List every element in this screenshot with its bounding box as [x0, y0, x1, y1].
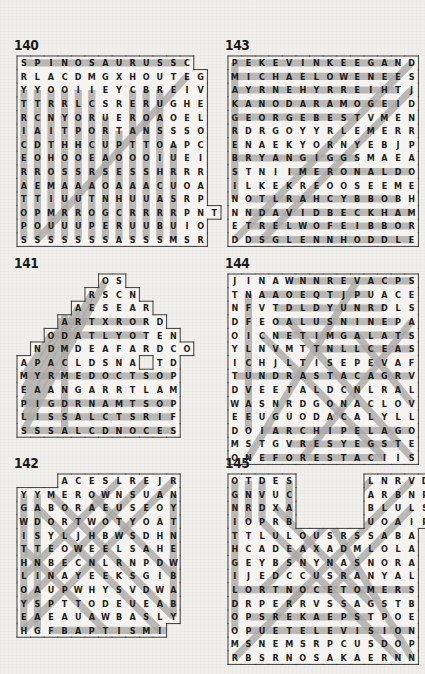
grid-letter: E — [382, 181, 388, 191]
grid-letter: R — [395, 371, 402, 381]
grid-letter: O — [245, 585, 252, 595]
grid-letter: O — [313, 221, 320, 231]
grid-letter: L — [314, 385, 319, 395]
grid-letter: R — [340, 531, 347, 541]
grid-letter: S — [143, 167, 149, 177]
puzzle-grid[interactable]: ACESLREJRYYMEROWNSUANGABORAEUSEOYWDORTWO… — [14, 471, 183, 640]
grid-letter: N — [367, 317, 374, 327]
grid-letter: O — [381, 558, 388, 568]
grid-letter: A — [21, 181, 28, 191]
grid-letter: G — [367, 599, 374, 609]
grid-letter: T — [130, 399, 136, 409]
grid-letter: P — [89, 221, 95, 231]
grid-letter: R — [48, 99, 55, 109]
grid-letter: C — [143, 426, 149, 436]
grid-letter: L — [355, 344, 360, 354]
grid-letter: R — [116, 99, 123, 109]
grid-letter: E — [259, 571, 265, 581]
grid-letter: G — [170, 99, 177, 109]
grid-letter: A — [259, 544, 266, 554]
grid-letter: D — [156, 344, 163, 354]
grid-letter: D — [272, 571, 279, 581]
puzzle-grid[interactable]: OSRSCNAESEARARTXRORDODATLYOTENNDMDEAFARD… — [14, 271, 197, 440]
grid-letter: B — [381, 140, 387, 150]
grid-letter: A — [354, 653, 361, 663]
grid-letter: N — [367, 558, 374, 568]
grid-letter: I — [158, 571, 161, 581]
grid-letter: G — [381, 371, 388, 381]
grid-letter: R — [89, 167, 96, 177]
puzzle-page: 140SPINOSAURUSSCRLACDMGXHOUTEGYYOOIIEYCB… — [0, 0, 425, 674]
grid-letter: N — [34, 344, 41, 354]
grid-letter: C — [313, 585, 319, 595]
grid-letter: A — [75, 626, 82, 636]
grid-letter: N — [286, 585, 293, 595]
grid-letter: A — [327, 99, 334, 109]
grid-letter: A — [170, 585, 177, 595]
grid-letter: F — [171, 412, 177, 422]
grid-letter: P — [21, 221, 27, 231]
puzzle-grid[interactable]: PEKEVINKEEGANDMICHAELOWENEESAYRNEHYRREIH… — [225, 53, 421, 249]
grid-letter: N — [170, 531, 177, 541]
grid-letter: O — [245, 517, 252, 527]
grid-letter: D — [408, 58, 415, 68]
grid-letter: A — [259, 290, 266, 300]
grid-letter: Y — [244, 85, 251, 95]
grid-letter: O — [395, 399, 402, 409]
grid-letter: M — [169, 235, 177, 245]
grid-letter: N — [408, 490, 415, 500]
grid-letter: K — [116, 571, 123, 581]
grid-letter: D — [313, 412, 320, 422]
grid-letter: T — [143, 331, 149, 341]
grid-letter: R — [129, 58, 136, 68]
grid-letter: S — [143, 399, 149, 409]
grid-letter: E — [286, 85, 292, 95]
grid-letter: O — [143, 153, 150, 163]
grid-letter: A — [34, 503, 41, 513]
grid-letter: F — [246, 317, 252, 327]
grid-letter: S — [409, 72, 415, 82]
grid-letter: A — [368, 371, 375, 381]
grid-letter: S — [354, 181, 360, 191]
puzzle-grid[interactable]: SPINOSAURUSSCRLACDMGXHOUTEGYYOOIIEYCBREI… — [14, 53, 224, 249]
grid-letter: P — [381, 612, 387, 622]
grid-letter: N — [48, 571, 55, 581]
grid-letter: L — [368, 385, 373, 395]
grid-letter: O — [327, 181, 334, 191]
grid-letter: I — [288, 167, 291, 177]
grid-letter: R — [143, 303, 150, 313]
grid-letter: E — [409, 612, 415, 622]
grid-letter: R — [327, 85, 334, 95]
puzzle-number: 144 — [225, 256, 398, 271]
puzzle-grid[interactable]: OTDESLNRVDGNVUCARBNPNRDXABLULSIOPRBUOAIP… — [225, 471, 425, 667]
grid-letter: A — [245, 399, 252, 409]
grid-letter: B — [245, 653, 251, 663]
grid-letter: R — [395, 558, 402, 568]
grid-letter: I — [315, 331, 318, 341]
grid-letter: O — [381, 194, 388, 204]
grid-letter: E — [314, 181, 320, 191]
grid-letter: U — [395, 503, 402, 513]
grid-letter: G — [367, 58, 374, 68]
grid-letter: Y — [169, 612, 176, 622]
grid-letter: P — [143, 558, 149, 568]
grid-letter: A — [89, 503, 96, 513]
grid-letter: E — [327, 585, 333, 595]
grid-letter: R — [170, 476, 177, 486]
puzzle-grid[interactable]: JINAWNNREVACPSTNAAOEQTJPUACENFVTDLDYUNRD… — [225, 271, 421, 467]
grid-letter: A — [157, 599, 164, 609]
grid-letter: W — [74, 585, 83, 595]
grid-letter: K — [232, 99, 239, 109]
grid-letter: A — [272, 208, 279, 218]
grid-letter: L — [368, 412, 373, 422]
grid-letter: S — [368, 531, 374, 541]
grid-letter: O — [299, 531, 306, 541]
grid-letter: I — [90, 85, 93, 95]
grid-letter: T — [21, 99, 27, 109]
grid-letter: R — [245, 503, 252, 513]
grid-letter: E — [103, 221, 109, 231]
grid-letter: T — [395, 85, 401, 95]
grid-letter: E — [246, 558, 252, 568]
grid-letter: C — [368, 344, 374, 354]
grid-letter: I — [77, 85, 80, 95]
